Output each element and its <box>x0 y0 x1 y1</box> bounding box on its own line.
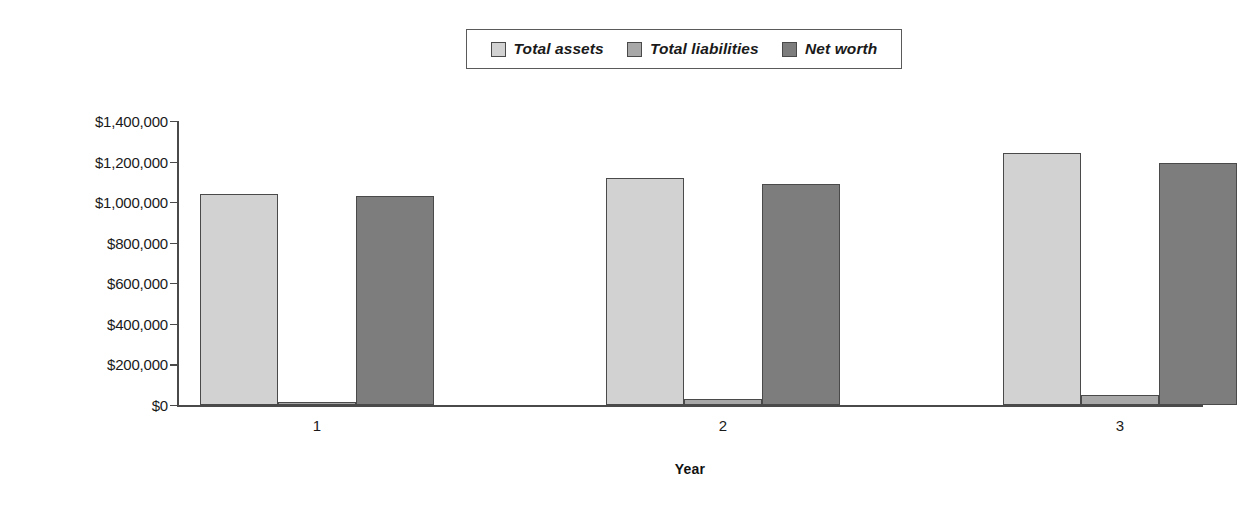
x-axis-title: Year <box>675 461 705 477</box>
bar-total-liabilities <box>1081 395 1159 405</box>
y-tick-mark <box>170 283 177 284</box>
y-tick-label: $1,200,000 <box>95 153 168 170</box>
legend-label-total-assets: Total assets <box>514 40 604 58</box>
legend-label-total-liabilities: Total liabilities <box>650 40 759 58</box>
y-axis-line <box>177 121 179 405</box>
y-tick-label: $400,000 <box>107 315 168 332</box>
x-category-label: 1 <box>313 417 321 434</box>
y-tick-mark <box>170 405 177 406</box>
legend-item-total-liabilities: Total liabilities <box>627 40 759 58</box>
bar-total-assets <box>606 178 684 405</box>
legend-item-total-assets: Total assets <box>491 40 604 58</box>
y-tick-mark <box>170 324 177 325</box>
bar-group <box>1003 121 1237 405</box>
y-tick-label: $600,000 <box>107 275 168 292</box>
legend-swatch-total-liabilities <box>627 42 642 57</box>
legend-swatch-net-worth <box>782 42 797 57</box>
y-tick-mark <box>170 202 177 203</box>
bar-group <box>606 121 840 405</box>
bar-group <box>200 121 434 405</box>
bar-total-assets <box>200 194 278 405</box>
bar-total-liabilities <box>684 399 762 405</box>
x-category-label: 3 <box>1116 417 1124 434</box>
y-tick-label: $200,000 <box>107 356 168 373</box>
legend-swatch-total-assets <box>491 42 506 57</box>
y-tick-label: $1,400,000 <box>95 113 168 130</box>
bar-chart: Total assets Total liabilities Net worth… <box>0 0 1251 506</box>
bar-net-worth <box>1159 163 1237 405</box>
y-tick-label: $1,000,000 <box>95 194 168 211</box>
x-axis-line <box>177 405 1203 407</box>
chart-legend: Total assets Total liabilities Net worth <box>466 29 902 69</box>
bar-total-assets <box>1003 153 1081 405</box>
y-tick-mark <box>170 364 177 365</box>
y-tick-label: $0 <box>152 397 168 414</box>
bar-net-worth <box>356 196 434 405</box>
bar-net-worth <box>762 184 840 405</box>
legend-label-net-worth: Net worth <box>805 40 877 58</box>
x-category-label: 2 <box>719 417 727 434</box>
y-tick-mark <box>170 121 177 122</box>
y-tick-mark <box>170 243 177 244</box>
y-tick-label: $800,000 <box>107 234 168 251</box>
plot-area: $1,400,000$1,200,000$1,000,000$800,000$6… <box>177 121 1203 405</box>
y-tick-mark <box>170 162 177 163</box>
bar-total-liabilities <box>278 402 356 405</box>
legend-item-net-worth: Net worth <box>782 40 877 58</box>
